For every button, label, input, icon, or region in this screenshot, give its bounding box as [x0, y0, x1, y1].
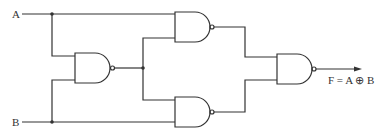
- output-label: F = A ⊕ B: [328, 74, 374, 86]
- input-label-b: B: [12, 116, 19, 128]
- junction-dot-g1: [141, 66, 145, 70]
- junction-dot-a: [50, 12, 54, 16]
- nand-gate-g4: [277, 54, 312, 84]
- input-label-a: A: [12, 8, 20, 20]
- wire-b-to-g1: [52, 80, 75, 122]
- nand-gate-g3: [175, 97, 210, 127]
- nand-gate-g2: [175, 12, 210, 42]
- output-arrow-icon: [354, 67, 362, 72]
- wire-g1-to-g2-g3: [143, 38, 175, 100]
- inversion-bubble-g1: [111, 66, 115, 70]
- junction-dot-b: [50, 120, 54, 124]
- wire-a-to-g1: [52, 14, 75, 56]
- wire-g3-to-g4: [214, 80, 277, 112]
- wire-g2-to-g4: [214, 27, 277, 57]
- nand-gate-g1: [75, 53, 110, 83]
- logic-circuit-diagram: A B F = A ⊕ B: [0, 0, 385, 134]
